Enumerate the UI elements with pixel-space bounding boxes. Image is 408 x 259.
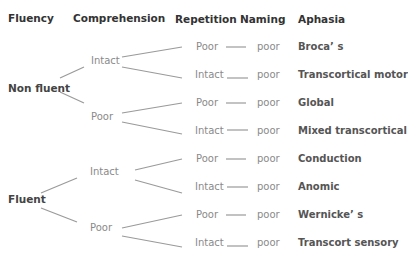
fluency-non-fluent: Non fluent xyxy=(8,83,70,94)
repetition-value: Poor xyxy=(196,154,218,164)
repetition-value: Intact xyxy=(195,70,224,80)
repetition-value: Poor xyxy=(196,42,218,52)
aphasia-type: Anomic xyxy=(298,182,340,192)
repetition-value: Poor xyxy=(196,98,218,108)
header-repetition: Repetition xyxy=(175,14,237,25)
naming-value: poor xyxy=(257,42,280,52)
aphasia-type: Mixed transcortical xyxy=(298,126,407,136)
aphasia-type: Transcortical motor xyxy=(298,70,408,80)
repetition-value: Poor xyxy=(196,210,218,220)
aphasia-type: Wernicke’ s xyxy=(298,210,363,220)
header-fluency: Fluency xyxy=(8,13,54,24)
aphasia-type: Global xyxy=(298,98,334,108)
naming-value: poor xyxy=(257,238,280,248)
naming-value: poor xyxy=(257,126,280,136)
comprehension-node: Poor xyxy=(91,112,113,122)
header-aphasia: Aphasia xyxy=(298,14,345,25)
fluency-fluent: Fluent xyxy=(8,194,46,205)
header-naming: Naming xyxy=(240,14,285,25)
comprehension-node: Poor xyxy=(90,223,112,233)
naming-value: poor xyxy=(257,182,280,192)
comprehension-node: Intact xyxy=(91,56,120,66)
naming-value: poor xyxy=(257,98,280,108)
comprehension-node: Intact xyxy=(90,167,119,177)
naming-value: poor xyxy=(257,210,280,220)
header-comprehension: Comprehension xyxy=(73,13,165,24)
aphasia-type: Transcort sensory xyxy=(298,238,399,248)
naming-value: poor xyxy=(257,70,280,80)
aphasia-type: Broca’ s xyxy=(298,42,343,52)
naming-value: poor xyxy=(257,154,280,164)
aphasia-type: Conduction xyxy=(298,154,362,164)
repetition-value: Intact xyxy=(195,182,224,192)
repetition-value: Intact xyxy=(195,126,224,136)
repetition-value: Intact xyxy=(195,238,224,248)
